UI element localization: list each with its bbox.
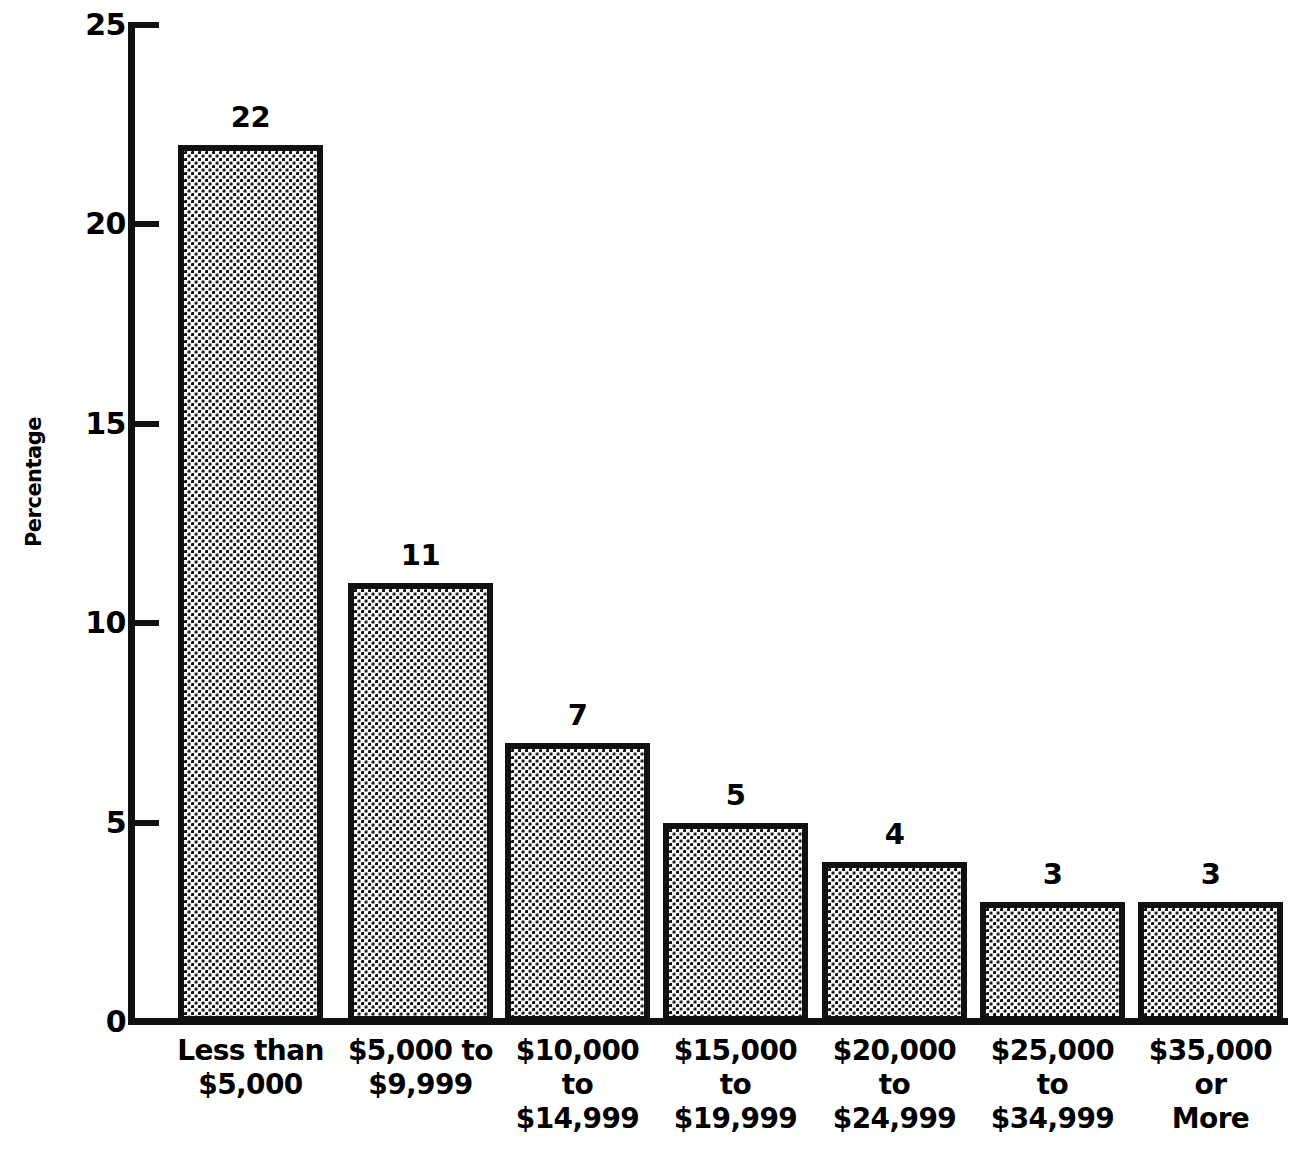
bar-chart: Percentage 2520151050 22Less than $5,000… (0, 0, 1300, 1149)
bar-value-label: 4 (822, 820, 967, 849)
bar-group (822, 862, 967, 1022)
bar (1138, 902, 1283, 1022)
bar-value-label: 22 (178, 103, 323, 132)
bar (348, 583, 493, 1022)
x-axis-category-label: $25,000 to $34,999 (964, 1034, 1141, 1136)
x-axis-category-label: Less than $5,000 (162, 1034, 339, 1102)
bar-value-label: 11 (348, 541, 493, 570)
x-axis-category-label: $20,000 to $24,999 (806, 1034, 983, 1136)
x-axis-category-label: $35,000 or More (1122, 1034, 1299, 1136)
bar-value-label: 3 (980, 860, 1125, 889)
bar-value-label: 5 (663, 781, 808, 810)
bar-group (505, 743, 650, 1022)
bar-value-label: 7 (505, 701, 650, 730)
bar (505, 743, 650, 1022)
bar (663, 823, 808, 1022)
bar-group (1138, 902, 1283, 1022)
bar-group (980, 902, 1125, 1022)
bar-value-label: 3 (1138, 860, 1283, 889)
x-axis-category-label: $15,000 to $19,999 (647, 1034, 824, 1136)
bar (822, 862, 967, 1022)
x-axis-category-label: $10,000 to $14,999 (489, 1034, 666, 1136)
bar (178, 145, 323, 1022)
bar-group (178, 145, 323, 1022)
bar (980, 902, 1125, 1022)
plot-area: 22Less than $5,00011$5,000 to $9,9997$10… (0, 0, 1300, 1149)
bar-group (663, 823, 808, 1022)
bar-group (348, 583, 493, 1022)
x-axis-category-label: $5,000 to $9,999 (332, 1034, 509, 1102)
